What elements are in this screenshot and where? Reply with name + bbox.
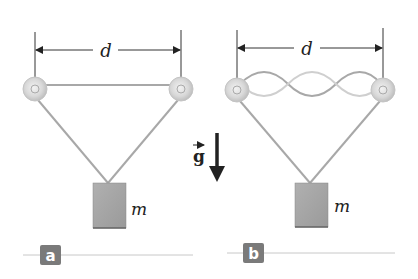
- pulley-icon: [23, 77, 47, 101]
- arrow-down-icon: [209, 166, 225, 182]
- right-diagonal-string: [108, 100, 178, 183]
- hanging-mass: [93, 183, 126, 228]
- distance-label: d: [301, 38, 313, 59]
- pulley-icon: [225, 78, 249, 102]
- left-diagonal-string: [38, 100, 108, 183]
- distance-label: d: [100, 40, 112, 61]
- panel-b: d m b: [225, 28, 395, 263]
- left-diagonal-string: [240, 101, 310, 183]
- standing-wave-trough: [240, 72, 381, 96]
- right-diagonal-string: [310, 101, 380, 183]
- pulley-icon: [169, 77, 193, 101]
- figure-canvas: d m a g d: [0, 0, 418, 279]
- panel-a: d m a: [23, 30, 193, 265]
- mass-label: m: [334, 196, 350, 216]
- panel-badge-label: a: [45, 247, 55, 265]
- panel-badge-label: b: [248, 245, 259, 263]
- figure-stage: d m a g d: [0, 0, 418, 279]
- hanging-mass: [295, 183, 328, 227]
- gravity-vector: g: [193, 133, 225, 182]
- standing-wave-crest: [240, 72, 381, 96]
- pulley-icon: [371, 78, 395, 102]
- gravity-label: g: [193, 146, 205, 166]
- mass-label: m: [131, 199, 147, 219]
